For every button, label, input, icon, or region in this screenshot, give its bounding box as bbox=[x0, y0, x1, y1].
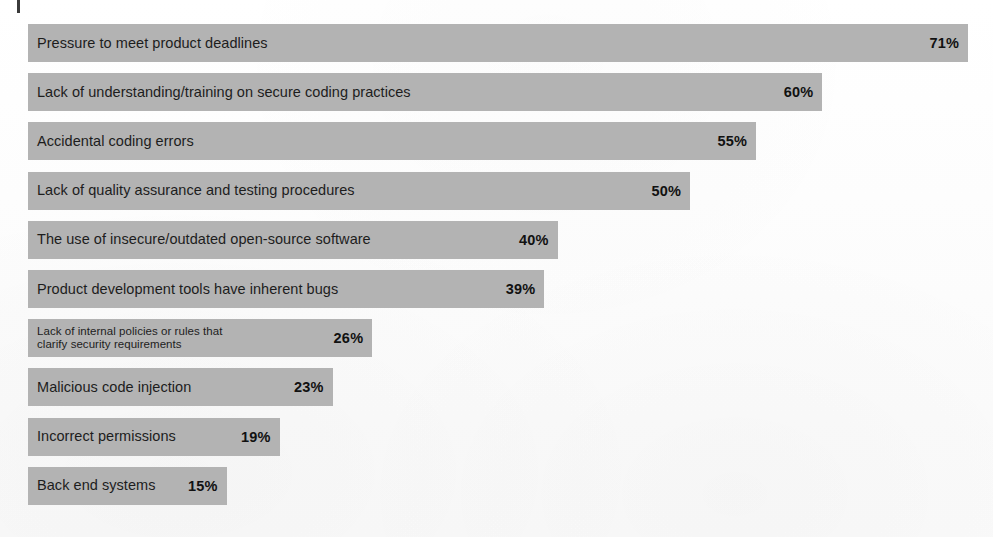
bar-row[interactable]: Back end systems15% bbox=[28, 467, 227, 505]
bar-row[interactable]: Lack of internal policies or rules that … bbox=[28, 319, 372, 357]
bar-category-label: Accidental coding errors bbox=[37, 133, 194, 150]
bar-category-label: Lack of quality assurance and testing pr… bbox=[37, 182, 355, 199]
bar-value-label: 39% bbox=[492, 281, 536, 297]
bar-value-label: 26% bbox=[320, 330, 364, 346]
bar-value-label: 71% bbox=[915, 35, 959, 51]
bar-value-label: 40% bbox=[505, 232, 549, 248]
bar-row[interactable]: Product development tools have inherent … bbox=[28, 270, 544, 308]
bar-row[interactable]: Incorrect permissions19% bbox=[28, 418, 280, 456]
bar-category-label: Incorrect permissions bbox=[37, 428, 176, 445]
bar-category-label: Lack of understanding/training on secure… bbox=[37, 84, 411, 101]
bar-row[interactable]: Pressure to meet product deadlines71% bbox=[28, 24, 968, 62]
bar-row[interactable]: Accidental coding errors55% bbox=[28, 122, 756, 160]
bar-category-label: Malicious code injection bbox=[37, 379, 191, 396]
bar-value-label: 60% bbox=[770, 84, 814, 100]
bar-category-label: Back end systems bbox=[37, 477, 155, 494]
bar-category-label: Pressure to meet product deadlines bbox=[37, 35, 268, 52]
bar-category-label: Lack of internal policies or rules that … bbox=[37, 325, 222, 352]
bar-value-label: 19% bbox=[227, 429, 271, 445]
horizontal-bar-chart: Pressure to meet product deadlines71%Lac… bbox=[0, 0, 993, 537]
bar-value-label: 23% bbox=[280, 379, 324, 395]
bar-value-label: 15% bbox=[174, 478, 218, 494]
crop-mark-icon bbox=[17, 0, 20, 13]
bar-value-label: 50% bbox=[637, 183, 681, 199]
bar-row[interactable]: The use of insecure/outdated open-source… bbox=[28, 221, 558, 259]
bar-category-label: Product development tools have inherent … bbox=[37, 281, 338, 298]
bar-value-label: 55% bbox=[704, 133, 748, 149]
bar-category-label: The use of insecure/outdated open-source… bbox=[37, 231, 371, 248]
bar-row[interactable]: Malicious code injection23% bbox=[28, 368, 333, 406]
bar-row[interactable]: Lack of quality assurance and testing pr… bbox=[28, 172, 690, 210]
bar-row[interactable]: Lack of understanding/training on secure… bbox=[28, 73, 822, 111]
